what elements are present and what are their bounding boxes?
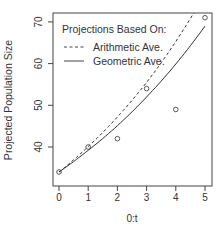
y-tick-label: 40 — [33, 141, 44, 153]
y-tick-label: 70 — [33, 16, 44, 28]
observed-point — [203, 15, 208, 20]
y-axis: 40506070 — [33, 16, 53, 153]
legend-title: Projections Based On: — [62, 23, 166, 35]
y-tick-label: 60 — [33, 58, 44, 70]
y-tick-label: 50 — [33, 99, 44, 111]
legend-label-arithmetic: Arithmetic Ave. — [93, 41, 163, 53]
x-tick-label: 2 — [115, 192, 121, 203]
legend-label-geometric: Geometric Ave. — [93, 55, 165, 67]
observed-point — [115, 136, 120, 141]
y-axis-label: Projected Population Size — [2, 40, 14, 160]
x-tick-label: 3 — [144, 192, 150, 203]
observed-point — [174, 107, 179, 112]
x-tick-label: 0 — [56, 192, 62, 203]
legend: Projections Based On: Arithmetic Ave. Ge… — [62, 23, 166, 67]
observed-point — [57, 170, 62, 175]
observed-point — [144, 86, 149, 91]
plot-frame — [53, 13, 212, 186]
x-tick-label: 1 — [85, 192, 91, 203]
x-tick-label: 5 — [202, 192, 208, 203]
population-projection-chart: 40506070 012345 Projections Based On: Ar… — [0, 0, 221, 229]
observed-point — [86, 145, 91, 150]
x-axis-label: 0:t — [126, 213, 137, 224]
observed-points — [57, 15, 208, 174]
x-tick-label: 4 — [173, 192, 179, 203]
x-axis: 012345 — [56, 186, 208, 203]
